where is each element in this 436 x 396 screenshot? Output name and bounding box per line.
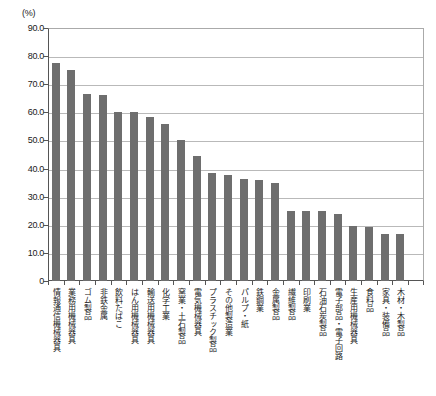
x-axis-label: 鉄鋼業	[255, 288, 264, 312]
x-axis-label: 繊維製品	[286, 288, 295, 320]
x-axis-label-slot: 電気機械器具	[189, 288, 205, 392]
x-axis-label: その他製造業	[224, 288, 233, 336]
x-axis-tick-slot	[377, 281, 393, 286]
gridline	[49, 57, 423, 58]
x-axis-tick-mark	[111, 281, 112, 285]
x-axis-label-slot: 生産用機械器具	[345, 288, 361, 392]
x-axis-tick-mark	[64, 281, 65, 285]
x-axis-tick-mark	[95, 281, 96, 285]
x-axis-label-slot: 石油石炭製品	[314, 288, 330, 392]
y-axis-tick-label: 80.0	[0, 52, 44, 61]
x-axis-label: 金属製品	[271, 288, 280, 320]
x-axis-label-slot: その他製造業	[220, 288, 236, 392]
plot-area	[48, 28, 424, 281]
x-axis-tick-slot	[252, 281, 268, 286]
x-axis-tick-mark	[48, 281, 49, 285]
x-axis-label: パルプ・紙	[239, 288, 248, 328]
x-axis-label-slot: パルプ・紙	[236, 288, 252, 392]
x-axis-tick-mark	[142, 281, 143, 285]
y-axis-tick-label: 10.0	[0, 249, 44, 258]
x-axis-tick-mark	[158, 281, 159, 285]
x-axis-tick-slot	[314, 281, 330, 286]
y-axis-tick-label: 70.0	[0, 80, 44, 89]
x-axis-tick-mark	[330, 281, 331, 285]
x-axis-tick-mark	[408, 281, 409, 285]
x-axis-label-slot: プラスチック製品	[205, 288, 221, 392]
x-axis-label-slot: 化学工業	[158, 288, 174, 392]
x-axis-tick-slot	[189, 281, 205, 286]
x-axis-tick-mark	[392, 281, 393, 285]
x-axis-label: 非鉄金属	[98, 288, 107, 320]
x-axis-tick-slot	[126, 281, 142, 286]
x-axis-tick-mark	[299, 281, 300, 285]
x-axis-label: 家具・装備品	[380, 288, 389, 336]
x-axis-tick-mark	[377, 281, 378, 285]
x-axis-tick-mark	[220, 281, 221, 285]
y-axis-tick-label: 40.0	[0, 165, 44, 174]
x-axis-tick-slot	[173, 281, 189, 286]
x-axis-tick-mark	[189, 281, 190, 285]
x-axis-tick-slot	[361, 281, 377, 286]
x-axis-tick-mark	[283, 281, 284, 285]
y-axis-tick-label: 0	[0, 277, 44, 286]
x-axis-label-slot: 電子部品・電子回路	[330, 288, 346, 392]
x-axis-label-slot: 木材・木製品	[392, 288, 408, 392]
x-axis-tick-slot	[330, 281, 346, 286]
x-axis-label-slot: 印刷業	[299, 288, 315, 392]
x-axis-label: ゴム製品	[83, 288, 92, 320]
x-axis-label-slot: 窯業・土石製品	[173, 288, 189, 392]
x-axis-label: 情報通信機械器具	[51, 288, 60, 352]
x-axis-label-slot: 家具・装備品	[377, 288, 393, 392]
x-axis-tick-mark	[126, 281, 127, 285]
x-axis-labels: 情報通信機械器具業務用機械器具ゴム製品非鉄金属飲料たばこはん用機械器具輸送用機械…	[48, 288, 424, 392]
x-axis-tick-slot	[64, 281, 80, 286]
x-axis-tick-mark	[361, 281, 362, 285]
x-axis-tick-slot	[236, 281, 252, 286]
x-axis-tick-slot	[95, 281, 111, 286]
x-axis-tick-slot	[205, 281, 221, 286]
x-axis-tick-mark	[173, 281, 174, 285]
x-axis-tick-mark	[205, 281, 206, 285]
bar-chart: (%) 010.020.030.040.050.060.070.080.090.…	[0, 0, 436, 396]
x-axis-label-slot: 繊維製品	[283, 288, 299, 392]
x-axis-tick-slot	[283, 281, 299, 286]
x-axis-label: はん用機械器具	[130, 288, 139, 344]
gridline	[49, 141, 423, 142]
y-axis-tick-label: 20.0	[0, 221, 44, 230]
x-axis-tick-slot	[299, 281, 315, 286]
x-axis-tick-mark	[252, 281, 253, 285]
x-axis-label: 輸送用機械器具	[145, 288, 154, 344]
y-axis-tick-label: 60.0	[0, 108, 44, 117]
y-axis-tick-label: 50.0	[0, 136, 44, 145]
gridline	[49, 170, 423, 171]
gridlines	[49, 29, 423, 280]
gridline	[49, 226, 423, 227]
x-axis-label: 飲料たばこ	[114, 288, 123, 328]
x-axis-tick-mark	[79, 281, 80, 285]
x-axis-tick-slot	[408, 281, 424, 286]
x-axis-label-slot-empty	[408, 288, 424, 392]
x-axis-label-slot: 輸送用機械器具	[142, 288, 158, 392]
x-axis-label-slot: はん用機械器具	[126, 288, 142, 392]
axis-unit-label: (%)	[22, 8, 35, 19]
gridline	[49, 113, 423, 114]
x-axis-tick-mark	[236, 281, 237, 285]
y-axis-tick-label: 90.0	[0, 24, 44, 33]
x-axis-label: 電子部品・電子回路	[333, 288, 342, 360]
gridline	[49, 198, 423, 199]
x-axis-label: 化学工業	[161, 288, 170, 320]
x-axis-label-slot: 情報通信機械器具	[48, 288, 64, 392]
x-axis-tick-slot	[345, 281, 361, 286]
x-axis-label: 窯業・土石製品	[177, 288, 186, 344]
x-axis-tick-mark	[423, 281, 424, 285]
x-axis-label: プラスチック製品	[208, 288, 217, 352]
x-axis-tick-mark	[345, 281, 346, 285]
gridline	[49, 254, 423, 255]
x-axis-tick-mark	[314, 281, 315, 285]
x-axis-tick-slot	[111, 281, 127, 286]
x-axis-tick-slot	[267, 281, 283, 286]
x-axis-label: 生産用機械器具	[349, 288, 358, 344]
x-axis-label: 電気機械器具	[192, 288, 201, 336]
x-axis-tick-slot	[79, 281, 95, 286]
x-axis-tick-mark	[267, 281, 268, 285]
